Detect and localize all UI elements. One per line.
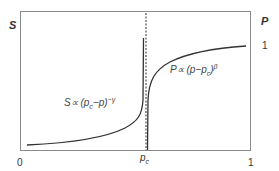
formula-S: S∝ (pc−p)−γ (64, 98, 115, 108)
x-tick-1: 1 (248, 158, 254, 168)
right-axis-label-P: P (261, 16, 268, 27)
formula-S-sup: −γ (108, 96, 116, 103)
x-tick-pc: pc (140, 153, 149, 163)
formula-S-mid: −p) (93, 97, 108, 108)
formula-P-sup: β (214, 63, 218, 70)
formula-P-prefix: P∝ (p−p (170, 64, 207, 75)
right-axis-tick-1: 1 (262, 41, 268, 51)
order-parameter-curve (148, 46, 247, 150)
diagram-canvas (0, 0, 279, 171)
susceptibility-curve (27, 38, 144, 145)
formula-S-prefix: S∝ (p (64, 97, 89, 108)
x-tick-pc-sub: c (146, 158, 150, 165)
left-axis-label-S: S (9, 20, 16, 31)
plot-frame (21, 12, 251, 151)
formula-P: P∝ (p−pc)β (170, 65, 218, 75)
x-tick-0: 0 (17, 158, 23, 168)
